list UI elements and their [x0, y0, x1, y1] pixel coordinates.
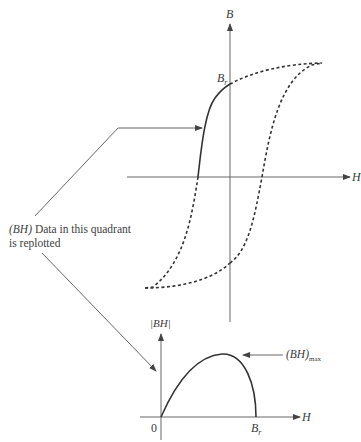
- energy-product-axes: [140, 334, 300, 440]
- bh-axis-label: |BH|: [150, 318, 171, 329]
- energy-product-curve: [161, 354, 256, 417]
- b-axis-label: B: [226, 8, 233, 20]
- demagnetization-curve: [198, 84, 230, 177]
- annotation-line-2: is replotted: [9, 236, 131, 250]
- h-axis-lower-label: H: [302, 411, 311, 423]
- replot-arrow: [42, 253, 156, 371]
- bhmax-sub: max: [309, 355, 321, 363]
- annotation-text: (BH) Data in this quadrant is replotted: [9, 222, 131, 250]
- annotation-rest: Data in this quadrant: [32, 223, 131, 235]
- h-axis-label: H: [352, 171, 361, 183]
- annotation-line-1: (BH) Data in this quadrant: [9, 222, 131, 236]
- origin-label: 0: [151, 422, 157, 434]
- bhmax-main: (BH): [286, 348, 309, 360]
- annotation-prefix: (BH): [9, 223, 32, 235]
- hysteresis-loop-dashed: [145, 63, 322, 288]
- hysteresis-axes: [127, 24, 350, 322]
- br-label: Br: [217, 72, 227, 84]
- br-lower-label: Br: [251, 422, 261, 434]
- leader-diagonal: [35, 128, 118, 216]
- bhmax-label: (BH)max: [286, 349, 321, 361]
